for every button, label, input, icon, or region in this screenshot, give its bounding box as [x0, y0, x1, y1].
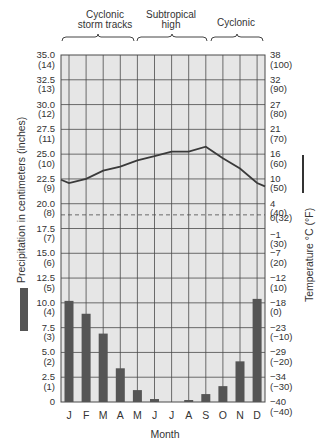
precipitation-bar	[99, 334, 108, 402]
left-tick-label: 5.0(2)	[25, 347, 55, 366]
right-tick-label: 32(90)	[270, 75, 320, 94]
right-tick-label: −29(−20)	[270, 347, 320, 366]
left-tick-label: 12.5(5)	[25, 273, 55, 292]
left-tick-label: 20.0(8)	[25, 199, 55, 218]
precipitation-bar	[201, 394, 210, 402]
month-label: J	[62, 409, 76, 421]
left-tick-label: 27.5(11)	[25, 124, 55, 143]
right-tick-label: −40(−40)	[270, 397, 320, 416]
right-tick-label: 38(100)	[270, 50, 320, 69]
month-label: M	[130, 409, 144, 421]
left-tick-label: 15.0(6)	[25, 248, 55, 267]
month-label: A	[182, 409, 196, 421]
left-tick-label: 35.0(14)	[25, 50, 55, 69]
left-tick-label: 2.5(1)	[25, 372, 55, 391]
month-label: S	[199, 409, 213, 421]
left-tick-label: 22.5(9)	[25, 174, 55, 193]
right-tick-label: −34(−30)	[270, 372, 320, 391]
precipitation-bar	[184, 400, 193, 402]
left-tick-label: 17.5(7)	[25, 224, 55, 243]
month-label: M	[96, 409, 110, 421]
right-tick-label: 16(60)	[270, 149, 320, 168]
left-tick-label: 10.0(4)	[25, 298, 55, 317]
precipitation-bar	[236, 361, 245, 402]
month-label: O	[216, 409, 230, 421]
temperature-legend-line	[302, 155, 304, 193]
month-label: A	[113, 409, 127, 421]
month-label: J	[165, 409, 179, 421]
right-tick-label: 10(50)	[270, 174, 320, 193]
precipitation-bar	[116, 368, 125, 402]
month-label: F	[79, 409, 93, 421]
precipitation-bar	[253, 299, 262, 402]
precipitation-bar	[218, 386, 227, 402]
left-tick-label: 7.5(3)	[25, 323, 55, 342]
left-axis-label: Precipitation in centimeters (inches)	[15, 117, 27, 283]
left-tick-label: 0	[25, 397, 55, 407]
right-axis-label: Temperature °C (°F)	[303, 208, 315, 302]
x-axis-label: Month	[145, 428, 185, 440]
right-tick-label: −23(−10)	[270, 323, 320, 342]
left-tick-label: 32.5(13)	[25, 75, 55, 94]
precipitation-bar	[82, 314, 91, 402]
left-tick-label: 30.0(12)	[25, 100, 55, 119]
right-tick-label: 27(80)	[270, 100, 320, 119]
month-label: N	[233, 409, 247, 421]
precipitation-bar	[65, 301, 74, 402]
precipitation-legend-swatch	[20, 288, 28, 331]
month-label: D	[250, 409, 264, 421]
month-label: J	[148, 409, 162, 421]
precipitation-bar	[150, 399, 159, 402]
right-tick-label: 21(70)	[270, 124, 320, 143]
left-tick-label: 25.0(10)	[25, 149, 55, 168]
precipitation-bar	[133, 390, 142, 402]
